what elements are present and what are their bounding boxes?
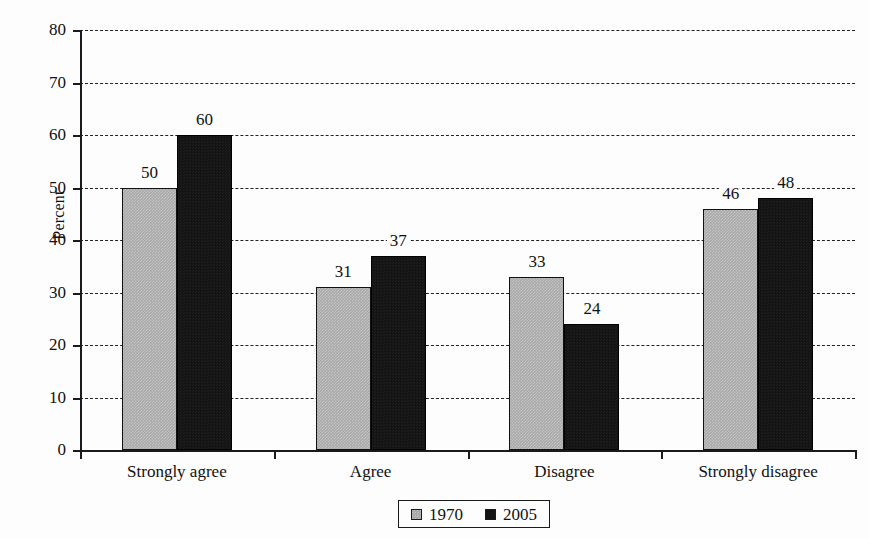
y-axis-tick-label: 0 — [26, 441, 66, 458]
bar-value-label: 60 — [193, 111, 216, 128]
bar-2005-strongly-agree — [177, 135, 232, 450]
x-axis-tick — [274, 450, 276, 459]
x-axis-tick — [855, 450, 857, 459]
gridline — [80, 83, 855, 84]
y-axis-line — [80, 30, 82, 452]
x-axis-category-label: Agree — [274, 462, 468, 482]
bar-value-label: 24 — [580, 300, 603, 317]
bar-value-label: 33 — [525, 253, 548, 270]
bar-value-label: 48 — [774, 174, 797, 191]
bar-value-label-wrap: 60 — [164, 111, 245, 128]
plot-area: 807060504030201005060Strongly agree3137A… — [80, 30, 855, 452]
gray-swatch-icon — [411, 509, 422, 520]
y-axis-tick-label: 70 — [26, 74, 66, 91]
x-axis-category-label: Strongly agree — [80, 462, 274, 482]
x-axis-tick — [661, 450, 663, 459]
bar-value-label-wrap: 24 — [551, 300, 632, 317]
y-axis-tick-label: 60 — [26, 126, 66, 143]
x-axis-category-label: Strongly disagree — [661, 462, 855, 482]
legend-label: 1970 — [429, 506, 463, 523]
bar-1970-strongly-disagree — [703, 209, 758, 451]
bar-2005-agree — [371, 256, 426, 450]
chart-legend: 19702005 — [398, 500, 550, 528]
y-axis-tick-label: 40 — [26, 231, 66, 248]
y-axis-tick-label: 50 — [26, 179, 66, 196]
bar-2005-strongly-disagree — [758, 198, 813, 450]
bar-1970-agree — [316, 287, 371, 450]
y-axis-tick-label: 80 — [26, 21, 66, 38]
bar-value-label-wrap: 37 — [358, 232, 439, 249]
x-axis-category-label: Disagree — [468, 462, 662, 482]
bar-value-label: 50 — [138, 164, 161, 181]
gridline — [80, 30, 855, 31]
y-axis-tick-label: 20 — [26, 336, 66, 353]
bar-value-label-wrap: 33 — [496, 253, 577, 270]
y-axis-tick-label: 30 — [26, 284, 66, 301]
x-axis-tick — [468, 450, 470, 459]
bar-1970-strongly-agree — [122, 188, 177, 451]
bar-2005-disagree — [564, 324, 619, 450]
bar-value-label: 37 — [387, 232, 410, 249]
bar-value-label-wrap: 48 — [745, 174, 826, 191]
legend-entry-1970: 1970 — [411, 506, 463, 523]
black-swatch-icon — [485, 509, 496, 520]
legend-label: 2005 — [503, 506, 537, 523]
bar-value-label: 46 — [719, 185, 742, 202]
y-axis-tick-label: 10 — [26, 389, 66, 406]
legend-entry-2005: 2005 — [485, 506, 537, 523]
bar-chart-figure: Percent 807060504030201005060Strongly ag… — [0, 0, 869, 539]
x-axis-tick — [80, 450, 82, 459]
bar-value-label: 31 — [332, 263, 355, 280]
